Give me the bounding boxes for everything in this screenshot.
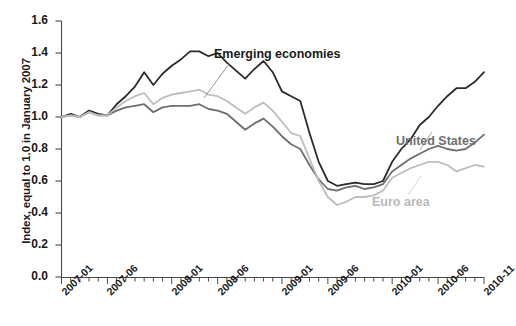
annotation-united-states: United States [396, 134, 476, 148]
y-axis-tick-label: 0.8 [14, 141, 48, 155]
y-axis-ticks [56, 21, 62, 277]
y-axis-tick-label: 1.6 [14, 13, 48, 27]
y-axis-tick-label: 0.6 [14, 173, 48, 187]
leader-line-emerging [204, 64, 229, 98]
y-axis-tick-label: 0.0 [14, 269, 48, 283]
annotation-emerging-economies: Emerging economies [214, 47, 340, 61]
annotation-euro-area: Euro area [372, 195, 430, 209]
y-axis-tick-label: 0.2 [14, 237, 48, 251]
y-axis-tick-label: 0.4 [14, 205, 48, 219]
y-axis-tick-label: 1.4 [14, 45, 48, 59]
y-axis-tick-label: 1.0 [14, 109, 48, 123]
data-series-group [62, 51, 485, 205]
series-line-emerging-economies [62, 51, 485, 185]
leader-line-euro-area [408, 176, 421, 195]
y-axis-tick-label: 1.2 [14, 77, 48, 91]
